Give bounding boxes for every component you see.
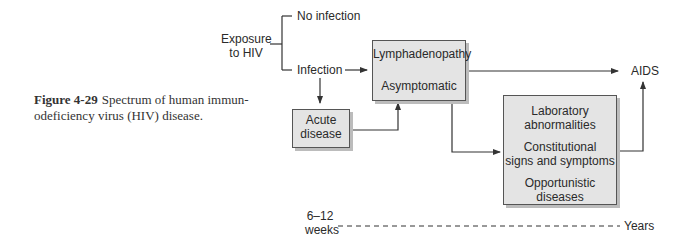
no-infection-label: No infection	[297, 9, 360, 23]
timeline-start-line1: 6–12	[305, 209, 335, 223]
lab-line2: abnormalities	[504, 118, 616, 132]
infection-label: Infection	[297, 63, 342, 77]
acute-disease-box: Acute disease	[292, 109, 350, 148]
lymphadenopathy-label: Lymphadenopathy	[373, 47, 465, 61]
timeline-start-line2: weeks	[305, 223, 335, 237]
constitutional-signs: Constitutional signs and symptoms	[504, 140, 616, 168]
lab-line1: Laboratory	[504, 104, 616, 118]
lymphadenopathy-box: Lymphadenopathy Asymptomatic	[372, 40, 466, 101]
progression-box: Laboratory abnormalities Constitutional …	[503, 95, 617, 205]
acute-line1: Acute	[293, 113, 349, 127]
opp-line1: Opportunistic	[504, 176, 616, 190]
acute-line2: disease	[293, 127, 349, 141]
opp-line2: diseases	[504, 190, 616, 204]
asymptomatic-label: Asymptomatic	[373, 79, 465, 93]
timeline-start-label: 6–12 weeks	[305, 209, 335, 237]
const-line2: signs and symptoms	[504, 154, 616, 168]
aids-label: AIDS	[631, 64, 659, 78]
opportunistic-diseases: Opportunistic diseases	[504, 176, 616, 204]
exposure-line1: Exposure	[221, 32, 271, 46]
exposure-line2: to HIV	[221, 46, 271, 60]
const-line1: Constitutional	[504, 140, 616, 154]
exposure-label: Exposure to HIV	[221, 32, 271, 60]
lab-abnormalities: Laboratory abnormalities	[504, 104, 616, 132]
timeline-end-label: Years	[624, 219, 654, 233]
